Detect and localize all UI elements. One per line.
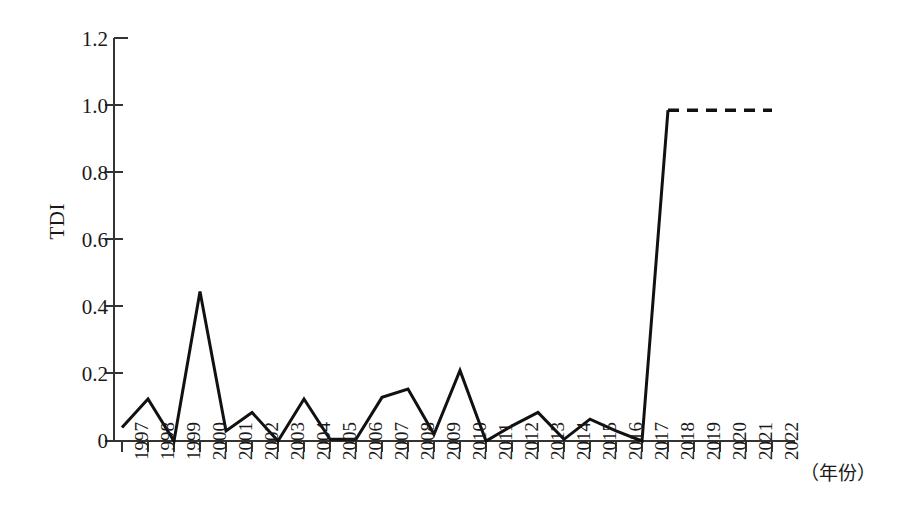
- x-tick-label-2007: 2007: [391, 422, 413, 460]
- x-tick-label-2019: 2019: [703, 422, 725, 460]
- x-tick-label-2001: 2001: [235, 422, 257, 460]
- x-tick-label-2013: 2013: [547, 422, 569, 460]
- chart-figure: TDI 1.2 1.0 0.8 0.6 0.4 0.2 0: [0, 0, 909, 521]
- y-tick-label-0: 0: [62, 429, 108, 454]
- x-tick-label-2009: 2009: [443, 422, 465, 460]
- y-tick-label-0.2: 0.2: [62, 362, 108, 387]
- y-tick-label-0.8: 0.8: [62, 161, 108, 186]
- x-axis-caption: （年份）: [800, 458, 876, 485]
- y-axis-ticks: [105, 38, 128, 441]
- y-tick-label-1.2: 1.2: [62, 27, 108, 52]
- x-tick-label-2017: 2017: [651, 422, 673, 460]
- x-tick-label-2018: 2018: [677, 422, 699, 460]
- y-tick-label-0.6: 0.6: [62, 228, 108, 253]
- x-tick-label-2011: 2011: [495, 423, 517, 460]
- x-tick-label-2000: 2000: [209, 422, 231, 460]
- x-tick-label-2022: 2022: [781, 422, 803, 460]
- x-tick-label-2020: 2020: [729, 422, 751, 460]
- x-tick-label-2021: 2021: [755, 422, 777, 460]
- x-tick-label-1998: 1998: [157, 422, 179, 460]
- x-tick-label-2015: 2015: [599, 422, 621, 460]
- x-tick-label-2003: 2003: [287, 422, 309, 460]
- y-tick-label-0.4: 0.4: [62, 295, 108, 320]
- x-tick-label-2014: 2014: [573, 422, 595, 460]
- x-tick-label-2010: 2010: [469, 422, 491, 460]
- x-tick-label-2005: 2005: [339, 422, 361, 460]
- x-tick-label-1997: 1997: [131, 422, 153, 460]
- x-tick-label-2004: 2004: [313, 422, 335, 460]
- x-tick-label-2008: 2008: [417, 422, 439, 460]
- x-tick-label-2016: 2016: [625, 422, 647, 460]
- x-tick-label-2012: 2012: [521, 422, 543, 460]
- y-tick-label-1.0: 1.0: [62, 94, 108, 119]
- x-tick-label-1999: 1999: [183, 422, 205, 460]
- x-tick-label-2006: 2006: [365, 422, 387, 460]
- data-line-solid: [122, 110, 668, 441]
- x-tick-label-2002: 2002: [261, 422, 283, 460]
